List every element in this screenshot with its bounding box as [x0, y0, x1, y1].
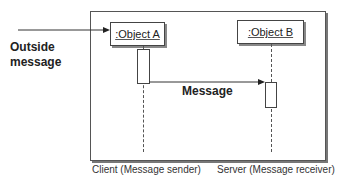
server-caption: Server (Message receiver) [217, 164, 335, 175]
arrows-layer [0, 0, 342, 188]
client-caption: Client (Message sender) [92, 164, 201, 175]
outside-message-arrow [18, 27, 110, 33]
message-label: Message [182, 84, 233, 98]
